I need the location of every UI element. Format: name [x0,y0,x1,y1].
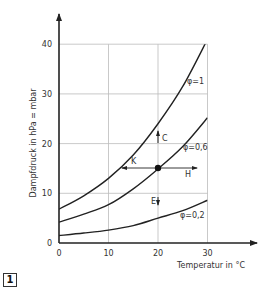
x-tick-labels: 0102030 [56,249,212,258]
y-tick-labels: 010203040 [42,40,52,248]
curve-label-phi-06: φ=0,6 [183,143,208,152]
humidity-curves [59,39,208,235]
x-tick-label: 20 [153,249,163,258]
y-tick-label: 0 [47,239,52,248]
y-tick-label: 20 [42,140,52,149]
curve-0 [59,39,208,209]
x-axis-title: Temperatur in °C [176,261,245,270]
state-point [155,165,161,171]
x-tick-label: 30 [202,249,212,258]
figure-number: 1 [3,273,17,287]
x-tick-label: 0 [56,249,61,258]
vapour-pressure-chart: 0102030 010203040 Dampfdruck in hPa = mb… [0,0,270,287]
y-tick-label: 40 [42,40,52,49]
label-h: H [185,170,191,179]
curve-label-phi-02: φ=0,2 [180,211,205,220]
y-axis-title: Dampfdruck in hPa = mbar [29,88,38,198]
y-tick-label: 30 [42,90,52,99]
label-c: C [162,134,168,143]
x-tick-label: 10 [103,249,113,258]
label-k: K [131,157,137,166]
curve-label-phi-1: φ=1 [187,77,204,86]
y-tick-label: 10 [42,189,52,198]
label-e: E [151,197,156,206]
